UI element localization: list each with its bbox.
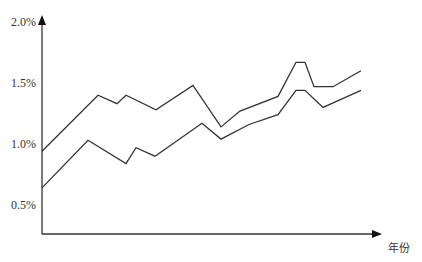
y-tick-label: 2.0% <box>11 15 36 29</box>
y-tick-label: 1.5% <box>11 76 36 90</box>
series-line-lower <box>42 90 361 188</box>
axes <box>38 15 382 238</box>
data-series <box>42 62 361 188</box>
y-axis-arrow-icon <box>38 15 46 25</box>
y-tick-label: 0.5% <box>11 198 36 212</box>
line-chart: 0.5%1.0%1.5%2.0% 年份 <box>0 0 422 262</box>
series-line-upper <box>42 62 361 151</box>
y-tick-label: 1.0% <box>11 137 36 151</box>
x-axis-arrow-icon <box>372 230 382 238</box>
x-axis-label: 年份 <box>388 241 410 255</box>
y-tick-labels: 0.5%1.0%1.5%2.0% <box>11 15 36 212</box>
